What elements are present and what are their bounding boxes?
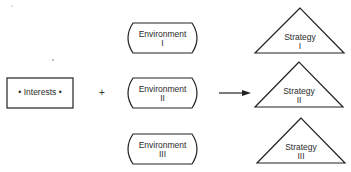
strategy-3-label: Strategy III: [271, 143, 331, 161]
environment-3-numeral: III: [125, 150, 200, 159]
strategy-2-numeral: II: [269, 96, 329, 105]
strategy-1-label: Strategy I: [270, 33, 330, 51]
strategy-3-numeral: III: [271, 152, 331, 161]
environment-2-numeral: II: [125, 94, 200, 103]
environment-1-numeral: I: [125, 39, 200, 48]
environment-2-label: Environment II: [125, 85, 200, 103]
strategy-1-numeral: I: [270, 42, 330, 51]
environment-3-label: Environment III: [125, 141, 200, 159]
environment-1-label: Environment I: [125, 30, 200, 48]
arrow-head-icon: [242, 90, 251, 96]
interests-label: • Interests •: [7, 88, 73, 97]
plus-operator: +: [99, 87, 105, 98]
strategy-2-label: Strategy II: [269, 87, 329, 105]
